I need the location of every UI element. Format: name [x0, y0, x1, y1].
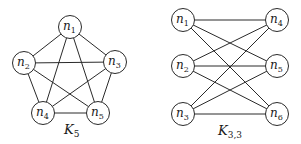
node-n3: n3 — [104, 51, 127, 74]
node-n4: n4 — [266, 9, 289, 32]
node-n5: n5 — [87, 102, 110, 125]
node-n1: n1 — [59, 16, 82, 39]
complete-graph-k5: n1n2n3n4n5 K5 — [13, 16, 127, 140]
node-n2: n2 — [13, 52, 36, 75]
edge-n2-n3 — [24, 62, 115, 63]
k5-edges — [24, 27, 115, 113]
node-n5: n5 — [266, 55, 289, 78]
complete-bipartite-graph-k33: n1n2n3n4n5n6 K3,3 — [172, 9, 289, 141]
node-n6: n6 — [266, 103, 289, 126]
k33-title: K3,3 — [217, 123, 242, 140]
node-n2: n2 — [172, 55, 195, 78]
node-n3: n3 — [172, 103, 195, 126]
node-n1: n1 — [172, 9, 195, 32]
k5-title: K5 — [63, 122, 80, 139]
node-n4: n4 — [32, 102, 55, 125]
edge-n1-n5 — [70, 27, 98, 113]
k33-edges — [183, 20, 277, 114]
k5-nodes: n1n2n3n4n5 — [13, 16, 127, 125]
graph-diagram-canvas: n1n2n3n4n5 K5 n1n2n3n4n5n6 K3,3 — [0, 0, 301, 144]
edge-n1-n4 — [43, 27, 70, 113]
